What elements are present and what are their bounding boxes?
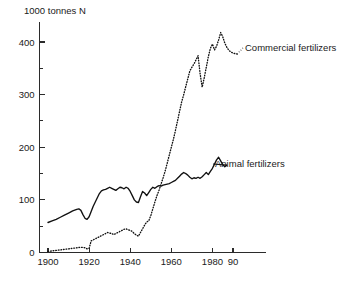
x-tick-label: 1920 (79, 256, 100, 267)
x-axis-tick-labels: 1900192019401960198090 (37, 256, 238, 267)
series-label-commercial-fertilizers: Commercial fertilizers (245, 42, 337, 53)
leader-line-commercial (237, 48, 243, 54)
x-tick-label: 90 (228, 256, 239, 267)
y-tick-label: 100 (19, 194, 35, 205)
y-tick-label: 300 (19, 89, 35, 100)
series-line-animal-fertilizers (48, 157, 227, 222)
chart-svg: 1000 tonnes N 0100200300400 190019201940… (0, 0, 348, 286)
series-line-commercial-fertilizers (48, 33, 237, 252)
y-tick-label: 400 (19, 37, 35, 48)
y-axis-ticks (40, 42, 46, 253)
y-axis-tick-labels: 0100200300400 (19, 37, 35, 259)
x-tick-label: 1900 (37, 256, 58, 267)
x-tick-label: 1960 (161, 256, 182, 267)
x-tick-label: 1980 (202, 256, 223, 267)
x-tick-label: 1940 (120, 256, 141, 267)
y-tick-label: 200 (19, 142, 35, 153)
series-label-animal-fertilizers: Animal fertilizers (215, 158, 285, 169)
x-axis-ticks (48, 248, 233, 253)
y-axis-title: 1000 tonnes N (24, 5, 86, 16)
y-tick-label: 0 (29, 247, 34, 258)
chart-figure: 1000 tonnes N 0100200300400 190019201940… (0, 0, 348, 286)
